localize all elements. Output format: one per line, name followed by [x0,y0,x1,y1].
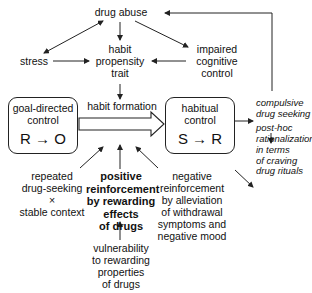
text-line: reinforcement [156,182,228,194]
box-title: control [9,114,77,126]
text-line: cognitive [189,55,245,67]
box-title: control [166,114,234,126]
text-line: by alleviation [156,194,228,206]
text-line: of drugs [86,220,156,233]
node-vulnerability: vulnerability to rewarding properties of… [88,242,154,290]
edge-repeated-formation [80,147,103,168]
node-stress: stress [17,55,51,67]
text-line: negative mood [156,230,228,242]
text-line: stable context [16,206,88,218]
text-line: habit [88,43,152,55]
text-line: of drugs [88,278,154,290]
text-line: impaired [189,43,245,55]
text-line: positive [86,170,156,183]
edge-habitual-rituals [235,170,253,187]
text-line: drug-seeking [16,182,88,194]
text-line: control [189,67,245,79]
text-line: × [16,194,88,206]
text-line: drug seeking [256,108,310,119]
node-goal-directed-control: goal-directed control R → O [8,97,78,154]
edge-negative-formation [136,147,158,168]
text-line: rationalization [256,133,312,144]
box-title: goal-directed [9,102,77,114]
node-impaired-cognitive-control: impaired cognitive control [189,43,245,79]
box-title: habitual [166,102,234,114]
node-repeated-drug-seeking: repeated drug-seeking × stable context [16,170,88,218]
text-line: of withdrawal [156,206,228,218]
node-compulsive-drug-seeking: compulsive drug seeking [256,97,310,119]
text-line: post-hoc [256,122,312,133]
text-line: to rewarding [88,254,154,266]
text-line: compulsive [256,97,310,108]
text-line: symptoms and [156,218,228,230]
text-line: reinforcement [86,183,156,196]
node-habit-propensity-trait: habit propensity trait [88,43,152,79]
node-habitual-control: habitual control S → R [165,97,235,154]
text-line: effects [86,208,156,221]
box-formula: S → R [166,131,234,147]
habit-formation-block-arrow [79,112,164,136]
box-formula: R → O [9,131,77,147]
text-line: negative [156,170,228,182]
text-line: trait [88,67,152,79]
node-negative-reinforcement: negative reinforcement by alleviation of… [156,170,228,242]
text-line: by rewarding [86,195,156,208]
node-post-hoc-rationalization: post-hoc rationalization in terms of cra… [256,122,312,166]
text-line: properties [88,266,154,278]
text-line: propensity [88,55,152,67]
text-line: vulnerability [88,242,154,254]
node-drug-rituals: drug rituals [256,165,303,176]
text-line: repeated [16,170,88,182]
text-line: in terms [256,144,312,155]
node-drug-abuse: drug abuse [93,6,149,18]
node-habit-formation: habit formation [86,100,158,112]
node-positive-reinforcement: positive reinforcement by rewarding effe… [86,170,156,233]
